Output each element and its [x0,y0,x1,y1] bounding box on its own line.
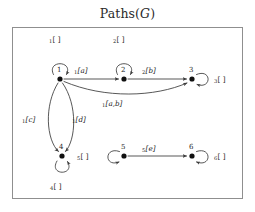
node-label-5: 5 [121,144,125,151]
edge-label-2-2: 2[ ] [113,36,125,44]
edge-label-1-4-d: 1[d] [72,116,86,124]
node-label-4: 4 [59,144,63,151]
edge-label-1-4-c: 1[c] [22,116,35,124]
node-2[interactable] [121,76,126,81]
edge-label-5-6: 5[e] [142,145,155,153]
edge-label-bracket: [b] [146,66,156,75]
edge-label-bracket: [ ] [218,152,226,161]
edge-4-4-selfloop [55,161,69,172]
node-3[interactable] [189,76,194,81]
edge-label-4-4: 4[ ] [50,183,62,191]
edge-1-4-left [48,83,58,152]
edge-label-2-3: 2[b] [142,67,156,75]
edge-label-5-5: 5[ ] [77,153,89,161]
node-4[interactable] [59,153,64,158]
edge-label-1-1: 1[ ] [49,36,61,44]
node-5[interactable] [121,153,126,158]
edge-label-1-2: 1[a] [74,67,88,75]
node-label-6: 6 [189,144,193,151]
edge-3-3-selfloop [197,73,209,85]
edge-label-bracket: [a,b] [106,99,123,108]
edge-label-bracket: [ ] [117,35,125,44]
edge-label-1-3: 1[a,b] [102,100,122,108]
node-label-3: 3 [189,67,193,74]
edge-label-3-3: 3[ ] [214,76,226,84]
node-6[interactable] [189,153,194,158]
edge-6-6-selfloop [197,151,209,163]
node-label-2: 2 [121,67,125,74]
edge-label-bracket: [d] [76,115,86,124]
node-label-1: 1 [57,67,61,74]
edge-label-bracket: [c] [26,115,36,124]
edge-label-bracket: [ ] [53,35,61,44]
edge-label-bracket: [ ] [218,75,226,84]
node-1[interactable] [57,76,62,81]
edge-label-6-6: 6[ ] [214,153,226,161]
edge-1-3-curve [64,82,187,95]
edge-label-bracket: [a] [78,66,88,75]
diagram-root: Paths(G) [0,0,255,212]
edge-5-5-selfloop [108,151,120,163]
graph-canvas [0,0,255,212]
edge-label-bracket: [e] [146,144,156,153]
edge-label-bracket: [ ] [81,152,89,161]
edge-label-bracket: [ ] [54,182,62,191]
